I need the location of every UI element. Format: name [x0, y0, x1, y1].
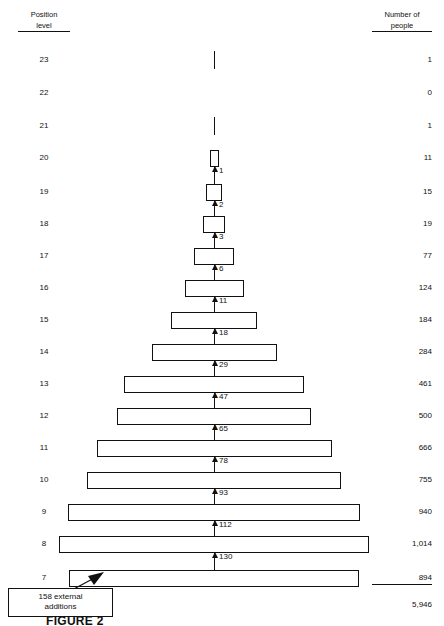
promotion-arrow [214, 521, 215, 536]
position-level-label: 17 [18, 251, 70, 261]
promotion-arrow [214, 233, 215, 248]
position-level-label: 10 [18, 475, 70, 485]
promotion-count-label: 29 [219, 360, 228, 369]
promotion-count-label: 112 [219, 520, 232, 529]
callout-line1: 158 external [13, 592, 108, 602]
promotion-count-label: 18 [219, 328, 228, 337]
level-bar [210, 150, 219, 167]
people-count-value: 77 [372, 251, 432, 261]
people-count-value: 124 [372, 283, 432, 293]
position-level-label: 12 [18, 411, 70, 421]
position-level-label: 20 [18, 153, 70, 163]
promotion-count-label: 2 [219, 200, 223, 209]
promotion-arrow [214, 201, 215, 216]
grand-total-value: 5,946 [372, 600, 432, 610]
position-level-label: 21 [18, 121, 70, 131]
people-count-value: 15 [372, 187, 432, 197]
position-level-label: 22 [18, 88, 70, 98]
promotion-count-label: 130 [219, 552, 232, 561]
promotion-arrow [214, 167, 215, 184]
position-level-label: 13 [18, 379, 70, 389]
level-bar [87, 472, 341, 489]
people-count-value: 0 [372, 88, 432, 98]
people-count-value: 1,014 [372, 539, 432, 549]
people-count-value: 894 [372, 573, 432, 585]
external-additions-callout: 158 external additions [8, 588, 113, 617]
people-count-value: 461 [372, 379, 432, 389]
promotion-count-label: 47 [219, 392, 228, 401]
people-count-value: 19 [372, 219, 432, 229]
promotion-arrow [214, 361, 215, 376]
level-bar [152, 344, 277, 361]
promotion-arrow [214, 265, 215, 280]
position-level-label: 9 [18, 507, 70, 517]
level-bar [194, 248, 234, 265]
level-bar [117, 408, 311, 425]
position-level-label: 19 [18, 187, 70, 197]
promotion-count-label: 1 [219, 166, 223, 175]
promotion-arrow [214, 329, 215, 344]
level-bar [171, 312, 257, 329]
level-bar [59, 536, 369, 553]
position-level-label: 23 [18, 55, 70, 65]
promotion-arrow [214, 425, 215, 440]
callout-line2: additions [13, 602, 108, 612]
promotion-count-label: 78 [219, 456, 228, 465]
position-level-label: 18 [18, 219, 70, 229]
position-level-label: 16 [18, 283, 70, 293]
promotion-count-label: 93 [219, 488, 228, 497]
position-level-label: 15 [18, 315, 70, 325]
level-bar-tick [214, 117, 215, 135]
people-count-value: 284 [372, 347, 432, 357]
promotion-count-label: 11 [219, 296, 227, 305]
level-bar [185, 280, 244, 297]
promotion-arrow [214, 457, 215, 472]
people-count-value: 1 [372, 121, 432, 131]
promotion-arrow [214, 553, 215, 570]
position-level-pyramid-chart: 2312202112011119152181931777616124111518… [0, 0, 444, 626]
level-bar [124, 376, 304, 393]
people-count-value: 500 [372, 411, 432, 421]
people-count-value: 11 [372, 153, 432, 163]
people-count-value: 666 [372, 443, 432, 453]
people-count-value: 940 [372, 507, 432, 517]
level-bar [206, 184, 222, 201]
promotion-arrow [214, 393, 215, 408]
level-bar [203, 216, 225, 233]
promotion-count-label: 6 [219, 264, 223, 273]
position-level-label: 11 [18, 443, 70, 453]
people-count-value: 755 [372, 475, 432, 485]
position-level-label: 14 [18, 347, 70, 357]
people-count-value: 184 [372, 315, 432, 325]
people-count-value: 1 [372, 55, 432, 65]
level-bar-tick [214, 51, 215, 69]
promotion-count-label: 65 [219, 424, 228, 433]
level-bar [68, 504, 360, 521]
promotion-arrow [214, 489, 215, 504]
promotion-arrow [214, 297, 215, 312]
level-bar [97, 440, 332, 457]
promotion-count-label: 3 [219, 232, 223, 241]
figure-caption: FIGURE 2 [46, 614, 104, 626]
